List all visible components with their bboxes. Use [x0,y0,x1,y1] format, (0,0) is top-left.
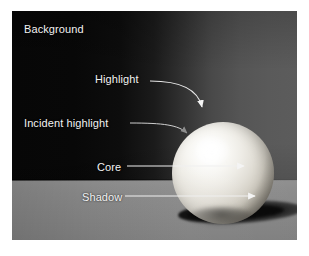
highlight-leader-line [150,81,202,107]
label-incident-highlight: Incident highlight [24,117,108,129]
label-core: Core [97,161,121,173]
label-background: Background [24,23,84,35]
photograph-frame: Background Highlight Incident highlight … [12,11,297,240]
label-shadow: Shadow [82,191,122,203]
figure-page: Background Highlight Incident highlight … [0,0,309,256]
label-highlight: Highlight [95,73,139,85]
incident-highlight-leader-line [130,123,187,133]
